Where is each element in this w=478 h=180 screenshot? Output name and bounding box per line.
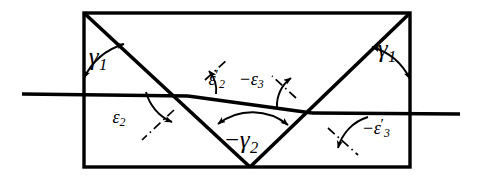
label-epsilon2-symbol: ε xyxy=(113,107,120,127)
angle-arc-gamma2-neg xyxy=(218,112,288,125)
exit-ray xyxy=(312,113,460,114)
label-epsilon3-neg-sub: 3 xyxy=(258,77,264,91)
normal-line-first-lower xyxy=(142,110,174,140)
label-gamma1-left: γ1 xyxy=(88,44,107,74)
label-epsilon3-prime-neg: −ε′3 xyxy=(363,116,390,140)
label-epsilon3-neg: −ε3 xyxy=(240,67,264,91)
label-gamma2-neg-symbol: γ xyxy=(240,126,250,153)
normal-line-second-upper xyxy=(272,76,296,98)
label-gamma1-right: γ1 xyxy=(377,36,396,66)
label-epsilon3-prime-neg-sub: 3 xyxy=(384,126,390,140)
label-epsilon2-prime-sub: 2 xyxy=(219,77,225,91)
label-gamma2-neg: −γ2 xyxy=(225,127,258,157)
label-gamma2-neg-minus: − xyxy=(225,126,239,153)
label-gamma1-right-symbol: γ xyxy=(378,35,388,62)
label-gamma1-right-sub: 1 xyxy=(388,47,396,66)
label-epsilon3-neg-minus: − xyxy=(240,69,250,89)
label-epsilon2-sub: 2 xyxy=(120,115,126,129)
normal-line-second-lower xyxy=(328,128,358,155)
label-gamma1-left-sub: 1 xyxy=(99,55,107,74)
figure-container: γ1 γ1 ε2 ε′2 −ε3 −γ2 −ε′3 xyxy=(0,0,478,180)
label-gamma2-neg-sub: 2 xyxy=(250,138,258,157)
label-gamma1-left-symbol: γ xyxy=(89,43,99,70)
label-epsilon3-prime-neg-minus: − xyxy=(363,118,373,138)
label-epsilon2-prime: ε′2 xyxy=(208,67,225,91)
label-epsilon3-neg-symbol: ε xyxy=(251,69,258,89)
incident-ray xyxy=(22,94,188,96)
label-epsilon2: ε2 xyxy=(112,105,126,129)
internal-ray xyxy=(188,96,312,113)
